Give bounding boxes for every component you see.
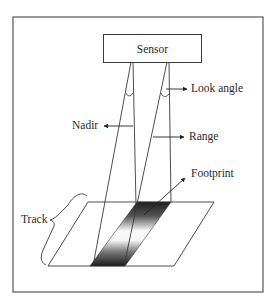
sensor-label: Sensor <box>137 43 168 55</box>
look-angle-arc <box>161 93 169 97</box>
track-label: Track <box>21 214 47 226</box>
range-line-vertical <box>169 62 171 202</box>
nadir-angle-arc <box>126 93 133 96</box>
sensor-box: Sensor <box>103 34 202 63</box>
nadir-label: Nadir <box>72 120 98 132</box>
footprint-label: Footprint <box>191 168 234 180</box>
range-label: Range <box>189 131 218 143</box>
nadir-line-vertical <box>133 62 136 205</box>
track-brace <box>41 194 87 265</box>
look-angle-label: Look angle <box>191 83 243 95</box>
